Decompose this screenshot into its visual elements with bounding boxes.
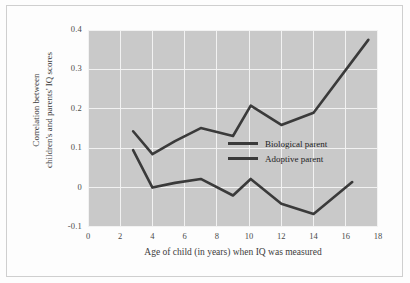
x-tick-label: 18 <box>374 231 383 241</box>
x-tick-label: 6 <box>183 231 187 241</box>
x-tick-label: 2 <box>118 231 122 241</box>
legend-swatch-biological-parent <box>228 142 258 145</box>
chart-figure: 0.40.30.20.10-0.1 024681012141618 Correl… <box>0 0 410 283</box>
legend-item-adoptive-parent: Adoptive parent <box>228 151 327 166</box>
x-tick-label: 12 <box>277 231 286 241</box>
series-lines <box>88 30 378 227</box>
legend-swatch-adoptive-parent <box>228 157 258 160</box>
y-tick-label: 0.1 <box>71 142 82 152</box>
y-axis-label-line-1: Correlation between <box>30 20 43 200</box>
y-tick-label: -0.1 <box>68 221 82 231</box>
y-tick-label: 0 <box>78 182 82 192</box>
x-tick-label: 0 <box>86 231 90 241</box>
y-axis-label: Correlation between children's and paren… <box>30 20 56 200</box>
plot-area <box>88 30 378 227</box>
x-tick-label: 4 <box>150 231 154 241</box>
x-tick-label: 10 <box>245 231 254 241</box>
y-axis-label-line-2: children's and parents' IQ scores <box>43 20 56 200</box>
legend-label-biological-parent: Biological parent <box>265 139 327 149</box>
x-tick-label: 8 <box>215 231 219 241</box>
legend-item-biological-parent: Biological parent <box>228 136 327 151</box>
chart-legend: Biological parent Adoptive parent <box>228 136 327 166</box>
x-axis-label: Age of child (in years) when IQ was meas… <box>88 247 378 257</box>
x-tick-label: 16 <box>342 231 351 241</box>
y-tick-label: 0.2 <box>71 103 82 113</box>
legend-label-adoptive-parent: Adoptive parent <box>265 154 323 164</box>
y-tick-label: 0.3 <box>71 63 82 73</box>
y-tick-label: 0.4 <box>71 24 82 34</box>
x-tick-label: 14 <box>309 231 318 241</box>
